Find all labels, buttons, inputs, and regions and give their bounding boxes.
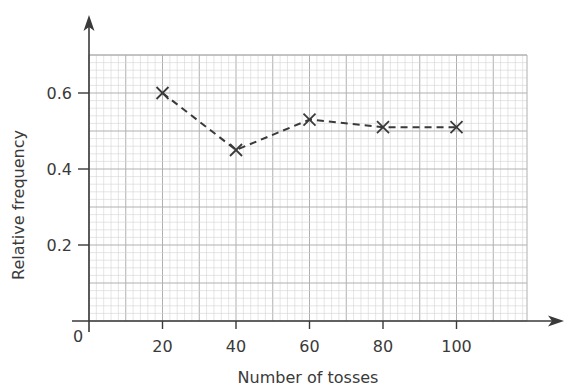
y-axis-title: Relative frequency [9, 130, 28, 280]
y-tick-label: 0.4 [47, 160, 72, 179]
x-tick-label: 60 [299, 337, 319, 356]
y-ticks: 0.20.40.6 [47, 84, 89, 255]
y-tick-label: 0.6 [47, 84, 72, 103]
origin-label: 0 [73, 327, 83, 346]
y-tick-label: 0.2 [47, 236, 72, 255]
x-tick-label: 100 [441, 337, 472, 356]
x-axis-title: Number of tosses [238, 368, 379, 387]
relative-frequency-chart: 20406080100 0.20.40.6 0 Number of tosses… [0, 0, 571, 390]
x-tick-label: 80 [373, 337, 393, 356]
x-tick-label: 20 [152, 337, 172, 356]
graph-paper-grid [89, 55, 527, 321]
x-ticks: 20406080100 [152, 321, 471, 356]
x-tick-label: 40 [226, 337, 246, 356]
